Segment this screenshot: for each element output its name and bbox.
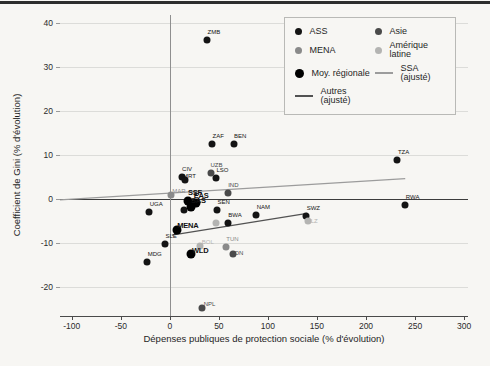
point-IDN: IDN	[229, 250, 236, 257]
point-RWA: RWA	[402, 201, 409, 208]
x-tick-label: 200	[359, 322, 373, 331]
point-label-BEN: BEN	[234, 133, 246, 139]
point-label-UZB: UZB	[211, 161, 223, 167]
legend-dot-swatch	[295, 47, 302, 54]
x-tick-label: 100	[261, 322, 275, 331]
point-label-NPL: NPL	[204, 301, 216, 307]
legend-label: Amérique latine	[389, 41, 445, 59]
point-MAR: MAR	[167, 191, 174, 198]
x-tick-label: 0	[167, 322, 172, 331]
legend-label: MENA	[309, 46, 335, 55]
x-tick-label: 150	[310, 322, 324, 331]
x-tick-label: -50	[115, 322, 127, 331]
y-tick-label: 20	[44, 107, 53, 116]
data-point	[212, 220, 219, 227]
legend-dot-swatch	[295, 28, 302, 35]
legend-dot-swatch	[295, 69, 304, 78]
legend: ASSAsieMENAAmérique latineMoy. régionale…	[284, 17, 456, 115]
y-tick-label: 30	[44, 63, 53, 72]
legend-dot-swatch	[375, 28, 382, 35]
point-TUN: TUN	[222, 244, 229, 251]
point-label-IND: IND	[228, 181, 238, 187]
legend-line-swatch	[375, 72, 393, 74]
legend-dot-swatch	[375, 47, 382, 54]
point-label-MENA: MENA	[177, 221, 198, 229]
point-label-TZA: TZA	[398, 148, 409, 154]
legend-item-am-rique-latine: Amérique latine	[375, 41, 445, 59]
point-label-MDG: MDG	[148, 250, 162, 256]
plot-area: ASSAsieMENAAmérique latineMoy. régionale…	[60, 15, 468, 317]
point-label-SWZ: SWZ	[307, 205, 320, 211]
point-label-TUN: TUN	[226, 236, 238, 242]
point-SLE: SLE	[161, 240, 168, 247]
legend-line-swatch	[295, 95, 313, 97]
legend-item-asie: Asie	[375, 27, 445, 36]
point-IND: IND	[224, 189, 231, 196]
point-label-SAS: SAS	[191, 196, 206, 204]
legend-item-ssa-ajust: SSA (ajusté)	[375, 64, 445, 82]
point-BWA: BWA	[224, 220, 231, 227]
y-tick-label: 10	[44, 151, 53, 160]
point-BLZ: BLZ	[305, 217, 312, 224]
x-tick-mark	[121, 316, 122, 320]
point-UZB: UZB	[208, 169, 215, 176]
point-SEN: SEN	[213, 207, 220, 214]
x-tick-mark	[317, 316, 318, 320]
point-NAM: NAM	[253, 212, 260, 219]
x-tick-mark	[72, 316, 73, 320]
point-SAS: SAS	[187, 202, 196, 211]
x-tick-label: 300	[457, 322, 471, 331]
legend-label: SSA (ajusté)	[400, 64, 445, 82]
point-label-IDN: IDN	[233, 249, 243, 255]
x-tick-mark	[366, 316, 367, 320]
x-tick-mark	[464, 316, 465, 320]
legend-label: ASS	[309, 27, 327, 36]
x-tick-mark	[268, 316, 269, 320]
legend-item-ass: ASS	[295, 27, 375, 36]
x-tick-mark	[170, 316, 171, 320]
point-label-WLD: WLD	[192, 246, 208, 254]
point-label-RWA: RWA	[406, 193, 420, 199]
point-label-NAM: NAM	[257, 204, 270, 210]
point-label-MAR: MAR	[172, 187, 185, 193]
point-label-ZAF: ZAF	[213, 133, 224, 139]
x-tick-label: 50	[214, 322, 223, 331]
point-label-LSO: LSO	[216, 166, 228, 172]
point-BEN: BEN	[230, 141, 237, 148]
x-tick-mark	[219, 316, 220, 320]
x-tick-label: 250	[408, 322, 422, 331]
point-label-UGA: UGA	[150, 201, 163, 207]
point-label-ZMB: ZMB	[208, 28, 221, 34]
legend-item-autres-ajust: Autres (ajusté)	[295, 87, 375, 105]
point-WLD: WLD	[187, 249, 196, 258]
data-point	[180, 207, 187, 214]
y-tick-label: -20	[41, 283, 53, 292]
point-TZA: TZA	[394, 156, 401, 163]
point-label-BWA: BWA	[228, 212, 241, 218]
legend-item-moy-r-gionale: Moy. régionale	[295, 64, 375, 82]
legend-label: Moy. régionale	[311, 69, 369, 78]
point-label-MRT: MRT	[183, 173, 196, 179]
y-axis-title: Coefficient de Gini (% d'évolution)	[11, 94, 22, 237]
point-NPL: NPL	[199, 305, 206, 312]
point-ZMB: ZMB	[204, 36, 211, 43]
point-label-BOL: BOL	[202, 238, 214, 244]
x-tick-label: -100	[63, 322, 80, 331]
point-MRT: MRT	[181, 177, 188, 184]
x-axis-title: Dépenses publiques de protection sociale…	[60, 333, 468, 344]
y-tick-label: 0	[48, 195, 53, 204]
y-tick-label: -10	[41, 239, 53, 248]
legend-label: Autres (ajusté)	[320, 87, 375, 105]
point-label-SEN: SEN	[217, 199, 229, 205]
point-UGA: UGA	[146, 209, 153, 216]
point-label-BLZ: BLZ	[307, 217, 318, 223]
point-MENA: MENA	[172, 225, 181, 234]
point-label-CIV: CIV	[182, 165, 192, 171]
point-LSO: LSO	[212, 174, 219, 181]
point-MDG: MDG	[144, 258, 151, 265]
scatter-figure: Coefficient de Gini (% d'évolution) ASSA…	[0, 0, 490, 366]
x-tick-mark	[415, 316, 416, 320]
point-ZAF: ZAF	[209, 141, 216, 148]
legend-label: Asie	[389, 27, 407, 36]
y-tick-label: 40	[44, 19, 53, 28]
